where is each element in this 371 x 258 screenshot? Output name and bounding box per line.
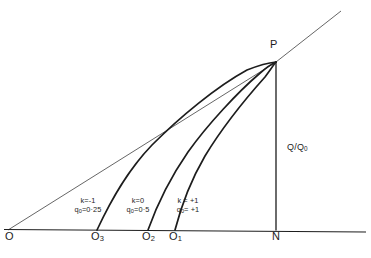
annotation-q0-value-plus-1: q0= +1: [168, 206, 208, 215]
label-o2-subscript: 2: [151, 234, 155, 243]
label-q-over-q0: Q/Q0: [287, 143, 308, 153]
label-o1-subscript: 1: [178, 234, 182, 243]
label-q-over-q0-subscript: 0: [304, 145, 308, 152]
annotation-q0-number-minus-1: =0·25: [82, 205, 102, 214]
annotation-curve-k-minus-1: k=-1 q0=0·25: [62, 197, 114, 215]
annotation-q0-value-zero: q0=0·5: [114, 206, 162, 215]
annotation-k-value-plus-1: k = +1: [168, 197, 208, 205]
label-o2: O2: [142, 231, 155, 243]
annotation-k-value-minus-1: k=-1: [62, 197, 114, 205]
label-o3-subscript: 3: [100, 234, 104, 243]
annotation-k-value-zero: k=0: [114, 197, 162, 205]
label-p: P: [270, 39, 278, 51]
annotation-q0-number-plus-1: = +1: [184, 205, 199, 214]
label-n: N: [272, 231, 280, 243]
label-o1: O1: [169, 231, 182, 243]
figure-container: O O3 O2 O1 N P Q/Q0 k=-1 q0=0·25 k=0 q0=…: [0, 0, 371, 258]
label-o2-base: O: [142, 230, 151, 242]
label-o3-base: O: [91, 230, 100, 242]
label-q-over-q0-base: Q/Q: [287, 142, 304, 152]
label-o1-base: O: [169, 230, 178, 242]
annotation-curve-k-plus-1: k = +1 q0= +1: [168, 197, 208, 215]
horizontal-axis: [4, 230, 366, 233]
annotation-curve-k-zero: k=0 q0=0·5: [114, 197, 162, 215]
annotation-q0-value-minus-1: q0=0·25: [62, 206, 114, 215]
label-o3: O3: [91, 231, 104, 243]
label-origin: O: [5, 231, 14, 243]
plot-canvas: [0, 0, 371, 258]
annotation-q0-number-zero: =0·5: [134, 205, 149, 214]
